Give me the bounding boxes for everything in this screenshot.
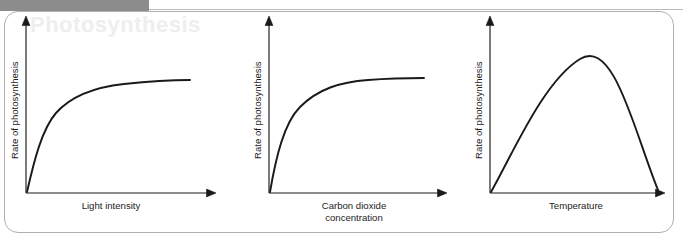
top-divider-rule [149,9,683,10]
y-axis-arrowhead-icon [265,16,273,26]
x-axis-arrowhead-icon [656,189,666,197]
x-axis-label: Light intensity [82,200,141,211]
saturation-curve [27,80,190,192]
x-axis-arrowhead-icon [438,189,448,197]
x-axis-label-line-1: Carbon dioxide [322,200,387,211]
saturation-curve [270,78,424,192]
x-axis-label-line-2: concentration [325,212,383,223]
y-axis-arrowhead-icon [22,16,30,26]
y-axis-arrowhead-icon [486,16,494,26]
y-axis-label: Rate of photosynthesis [9,61,20,159]
temperature-graph: Rate of photosynthesis Temperature [452,11,678,233]
x-axis-arrowhead-icon [207,189,217,197]
page-root: Photosynthesis Rate of photosynthesis Li… [0,0,683,241]
carbon-dioxide-graph: Rate of photosynthesis Carbon dioxide co… [228,11,466,233]
y-axis-label: Rate of photosynthesis [473,61,484,159]
light-intensity-graph: Rate of photosynthesis Light intensity [4,11,238,233]
optimum-curve [491,56,658,192]
top-gray-bar [0,0,149,11]
y-axis-label: Rate of photosynthesis [252,61,263,159]
x-axis-label: Temperature [549,200,603,211]
